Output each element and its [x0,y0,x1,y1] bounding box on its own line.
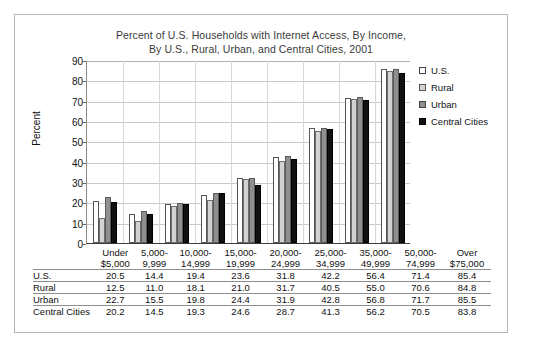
table-cell: 31.9 [263,294,308,306]
legend-label: Urban [431,99,457,110]
bar-group [87,61,123,243]
legend-swatch-icon [419,118,426,125]
table-column-header: Over$75,000 [443,247,491,270]
legend-swatch-icon [419,101,426,108]
legend-label: U.S. [431,65,449,76]
legend-label: Central Cities [431,116,488,127]
data-table: Under$5,0005,000-9,99910,000-14,99915,00… [33,247,491,317]
table-cell: 85.4 [443,270,491,282]
table-cell: 40.5 [308,282,353,294]
table-cell: 56.4 [353,270,398,282]
legend-item[interactable]: U.S. [419,63,507,77]
bar-group [375,61,411,243]
table-row-label: U.S. [33,270,95,282]
table-row: Urban22.715.519.824.431.942.856.871.785.… [33,294,491,306]
y-axis-tick-label: 80 [59,76,83,87]
bar [183,204,189,243]
table-cell: 19.8 [173,294,218,306]
table-cell: 31.7 [263,282,308,294]
bar-group [123,61,159,243]
table-cell: 15.5 [136,294,174,306]
legend-swatch-icon [419,84,426,91]
figure-panel: Percent of U.S. Households with Internet… [14,14,508,333]
y-axis-tick-mark [82,244,86,245]
bar-group [339,61,375,243]
bar [147,214,153,243]
legend-item[interactable]: Rural [419,80,507,94]
legend-swatch-icon [419,67,426,74]
table-row-label: Urban [33,294,95,306]
table-cell: 84.8 [443,282,491,294]
table-cell: 42.8 [308,294,353,306]
table-cell: 24.6 [218,306,263,318]
y-axis-tick-label: 20 [59,198,83,209]
y-axis-tick-label: 90 [59,56,83,67]
bar [363,100,369,243]
y-axis-tick-label: 50 [59,137,83,148]
table-cell: 56.8 [353,294,398,306]
table-cell: 19.3 [173,306,218,318]
bar-group [267,61,303,243]
table-cell: 14.5 [136,306,174,318]
table-cell: 42.2 [308,270,353,282]
bar-group [195,61,231,243]
table-cell: 19.4 [173,270,218,282]
table-cell: 85.5 [443,294,491,306]
table-row-label: Central Cities [33,306,95,318]
table-column-header: 15,000-19,999 [218,247,263,270]
table-header-row: Under$5,0005,000-9,99910,000-14,99915,00… [33,247,491,270]
y-axis-label: Percent [31,89,42,169]
y-axis-tick-label: 60 [59,117,83,128]
table-corner-cell [33,247,95,270]
table-cell: 71.4 [398,270,443,282]
legend-item[interactable]: Urban [419,97,507,111]
table-cell: 70.5 [398,306,443,318]
table-cell: 22.7 [95,294,136,306]
table-row-label: Rural [33,282,95,294]
y-axis-tick-label: 40 [59,157,83,168]
table-cell: 28.7 [263,306,308,318]
bar-group [303,61,339,243]
bar [399,73,405,243]
table-cell: 11.0 [136,282,174,294]
table-cell: 71.7 [398,294,443,306]
y-axis-tick-label: 70 [59,96,83,107]
table-cell: 20.2 [95,306,136,318]
table-column-header: 25,000-34,999 [308,247,353,270]
plot-area [86,61,410,244]
table-row: U.S.20.514.419.423.631.842.256.471.485.4 [33,270,491,282]
bar [219,193,225,243]
table-cell: 23.6 [218,270,263,282]
table-column-header: 20,000-24,999 [263,247,308,270]
table-cell: 21.0 [218,282,263,294]
table-column-header: 35,000-49,999 [353,247,398,270]
legend-item[interactable]: Central Cities [419,114,507,128]
table-cell: 14.4 [136,270,174,282]
y-axis-tick-label: 10 [59,218,83,229]
table-column-header: 50,000-74,999 [398,247,443,270]
table-cell: 18.1 [173,282,218,294]
table-column-header: 10,000-14,999 [173,247,218,270]
table-cell: 12.5 [95,282,136,294]
y-axis-tick-labels: 0102030405060708090 [56,61,83,244]
table-cell: 55.0 [353,282,398,294]
table-cell: 20.5 [95,270,136,282]
table-column-header: Under$5,000 [95,247,136,270]
legend-label: Rural [431,82,454,93]
bar [327,129,333,243]
table-cell: 56.2 [353,306,398,318]
table-cell: 41.3 [308,306,353,318]
table-row: Central Cities20.214.519.324.628.741.356… [33,306,491,318]
table-cell: 24.4 [218,294,263,306]
bar [255,185,261,243]
table-cell: 31.8 [263,270,308,282]
y-axis-tick-label: 30 [59,178,83,189]
bar [291,159,297,243]
table-cell: 83.8 [443,306,491,318]
bar [111,202,117,243]
table-column-header: 5,000-9,999 [136,247,174,270]
chart-legend: U.S.RuralUrbanCentral Cities [419,63,507,131]
table-cell: 70.6 [398,282,443,294]
table-row: Rural12.511.018.121.031.740.555.070.684.… [33,282,491,294]
bar-group [231,61,267,243]
